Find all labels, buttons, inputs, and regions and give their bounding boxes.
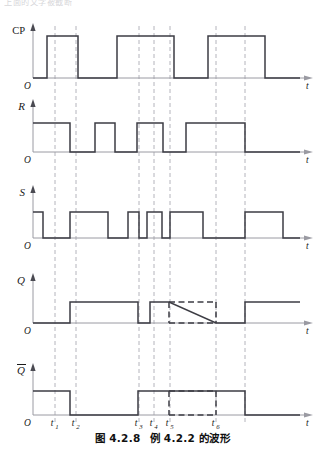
signal-label-Qbar: Q [17, 364, 25, 376]
origin-label-Qbar: O [24, 418, 31, 428]
tick-label-t5: t [166, 418, 169, 428]
time-axis-label-CP: t [306, 81, 309, 91]
waveform-trace-S [33, 212, 300, 238]
time-axis-label-S: t [306, 241, 309, 251]
signal-label-R: R [17, 100, 25, 112]
value-axis-arrow-S [30, 185, 35, 193]
tick-label-t3: t [135, 418, 138, 428]
time-axis-label-Q: t [306, 326, 309, 336]
labels-layer: CPOtROtSOtQOtQOt [12, 25, 309, 428]
waveform-canvas: CPOtROtSOtQOtQOt t1t2t3t4t5t6 [0, 0, 325, 460]
origin-label-S: O [24, 241, 31, 251]
waveform-trace-Qbar [33, 391, 300, 415]
time-axis-arrow-CP [304, 75, 313, 80]
waveform-trace-Q [33, 302, 300, 323]
tick-label-t6: t [212, 418, 215, 428]
tick-subscript-4: 4 [154, 423, 158, 430]
caption-text: 例 4.2.2 的波形 [150, 432, 231, 444]
tick-label-t1: t [51, 418, 54, 428]
origin-label-R: O [24, 155, 31, 165]
tick-subscript-1: 1 [55, 423, 58, 430]
value-axis-arrow-CP [30, 23, 35, 31]
time-axis-arrow-Q [304, 320, 313, 325]
origin-label-CP: O [24, 81, 31, 91]
signal-label-Q: Q [17, 274, 25, 286]
time-axis-arrow-Qbar [304, 412, 313, 417]
tick-subscript-6: 6 [216, 423, 220, 430]
waveform-traces-layer [33, 36, 300, 415]
figure-caption: 图 4.2.8例 4.2.2 的波形 [0, 430, 325, 445]
timing-diagram-figure: 上面的文字被截断 CPOtROtSOtQOtQOt t1t2t3t4t5t6 图… [0, 0, 325, 460]
time-axis-arrow-R [304, 149, 313, 154]
origin-label-Q: O [24, 326, 31, 336]
signal-label-CP: CP [12, 25, 25, 36]
time-axis-label-Qbar: t [306, 418, 309, 428]
value-axis-arrow-R [30, 99, 35, 107]
tick-label-t4: t [150, 418, 153, 428]
time-axis-label-R: t [306, 155, 309, 165]
guide-lines-layer [55, 26, 245, 425]
waveform-trace-CP [33, 36, 300, 78]
caption-number: 图 4.2.8 [95, 432, 141, 444]
tick-subscript-5: 5 [170, 423, 174, 430]
tick-subscript-3: 3 [138, 423, 143, 430]
waveform-trace-R [33, 123, 300, 152]
axes-layer [30, 23, 313, 418]
tick-subscript-2: 2 [76, 423, 80, 430]
tick-label-t2: t [72, 418, 75, 428]
value-axis-arrow-Qbar [30, 363, 35, 371]
value-axis-arrow-Q [30, 273, 35, 281]
time-axis-arrow-S [304, 235, 313, 240]
signal-label-S: S [20, 186, 26, 198]
